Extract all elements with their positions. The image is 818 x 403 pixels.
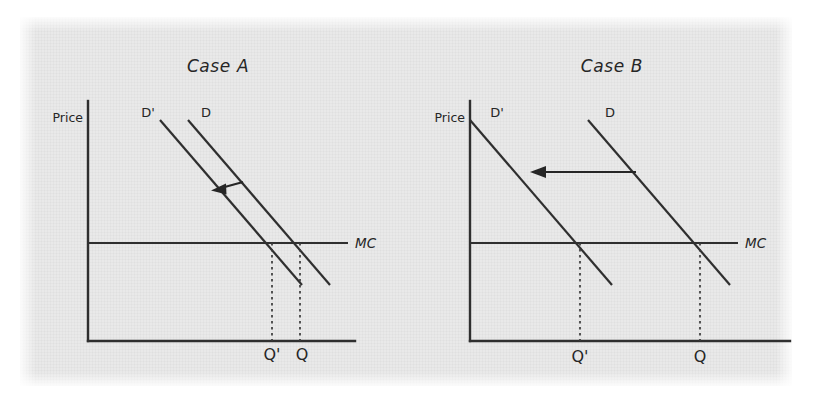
- case-b-mc-label: MC: [745, 235, 767, 251]
- case-b-q-shifted-label: Q': [572, 347, 589, 366]
- case-b-q-label: Q: [694, 347, 707, 366]
- case-b-title: Case B: [581, 56, 643, 76]
- case-b-demand-shifted-label: D': [490, 105, 504, 120]
- case-b-demand-label: D: [605, 105, 615, 120]
- case-b-shift-arrow: [530, 166, 636, 178]
- case-b-price-axis-label: Price: [435, 110, 466, 125]
- case-b-demand-shifted-curve: [470, 120, 612, 285]
- case-b-panel: Case B Price MC D' D Q' Q: [0, 0, 818, 403]
- case-b-demand-curve: [588, 120, 730, 285]
- figure-root: Case A Price MC D' D Q' Q Case B: [0, 0, 818, 403]
